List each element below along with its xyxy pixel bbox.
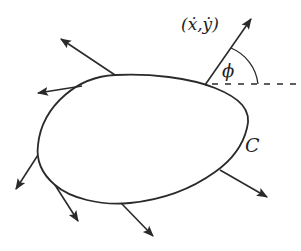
velocity-label: (ẋ,ẏ) [181, 14, 219, 34]
diagram-canvas: (ẋ,ẏ) ϕ C [0, 0, 301, 251]
arrow-top-left-lower [38, 86, 82, 93]
angle-arc [231, 48, 258, 84]
angle-phi-label: ϕ [222, 60, 234, 81]
arrow-bottom-left [55, 185, 78, 221]
arrow-bottom-right [220, 170, 267, 197]
arrow-bottom [121, 203, 153, 236]
arrow-top-left-upper [61, 39, 115, 75]
curve-c-label: C [245, 134, 260, 156]
closed-curve-c [38, 75, 248, 204]
arrow-left [16, 155, 38, 189]
diagram-svg: (ẋ,ẏ) ϕ C [0, 0, 301, 251]
